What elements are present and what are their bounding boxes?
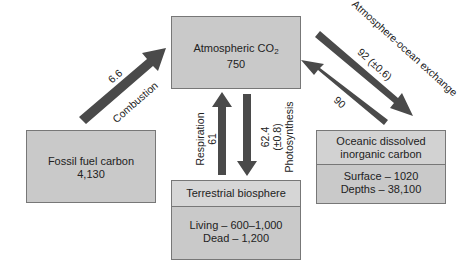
photosynthesis-arrow	[237, 94, 257, 176]
oceanic-title-line2: inorganic carbon	[317, 148, 445, 161]
fossil-fuel-title: Fossil fuel carbon	[27, 155, 155, 168]
respiration-value: 61	[206, 104, 218, 174]
respiration-label-group: Respiration 61	[194, 104, 220, 174]
atmosphere-box: Atmospheric CO2 750	[171, 16, 301, 89]
terrestrial-title: Terrestrial biosphere	[186, 187, 286, 199]
terrestrial-biosphere-box: Terrestrial biosphere Living – 600–1,000…	[171, 180, 301, 260]
fossil-fuel-value: 4,130	[27, 168, 155, 181]
oceanic-carbon-box: Oceanic dissolved inorganic carbon Surfa…	[316, 130, 446, 204]
terrestrial-dead: Dead – 1,200	[172, 232, 300, 245]
photosynthesis-label-group: 62.4 (±0.8) Photosynthesis	[259, 97, 297, 177]
atmosphere-title: Atmospheric CO2	[172, 42, 300, 58]
photosynthesis-label: Photosynthesis	[283, 97, 295, 177]
atmosphere-value: 750	[172, 58, 300, 71]
photosynthesis-value: 62.4	[259, 97, 271, 177]
fossil-fuel-box: Fossil fuel carbon 4,130	[26, 130, 156, 203]
respiration-label: Respiration	[194, 104, 206, 174]
oceanic-header: Oceanic dissolved inorganic carbon	[317, 131, 445, 165]
oceanic-surface: Surface – 1020	[317, 170, 445, 183]
terrestrial-header: Terrestrial biosphere	[172, 181, 300, 207]
oceanic-title-line1: Oceanic dissolved	[317, 135, 445, 148]
photosynthesis-uncertainty: (±0.8)	[271, 97, 283, 177]
oceanic-depths: Depths – 38,100	[317, 183, 445, 196]
terrestrial-living: Living – 600–1,000	[172, 219, 300, 232]
